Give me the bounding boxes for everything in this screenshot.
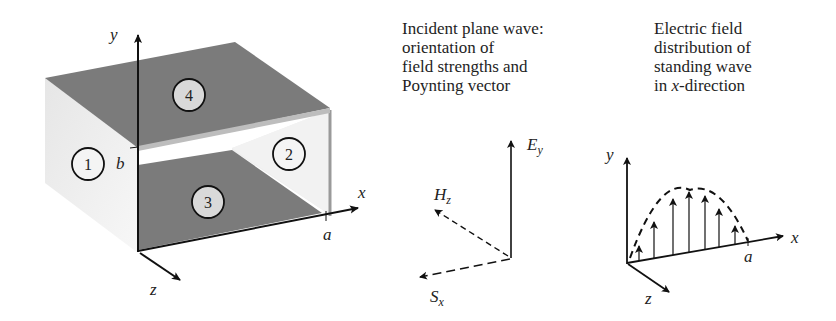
svg-text:1: 1 xyxy=(84,156,92,173)
y-axis-label: y xyxy=(108,25,118,44)
sw-a-label: a xyxy=(744,247,753,266)
svg-text:3: 3 xyxy=(204,194,212,211)
h-field-vector xyxy=(435,210,508,256)
svg-text:2: 2 xyxy=(285,146,293,163)
sw-z-label: z xyxy=(644,289,652,308)
s-x-label: Sx xyxy=(430,287,445,309)
sw-y-label: y xyxy=(604,145,614,164)
b-dimension-label: b xyxy=(116,154,125,173)
sw-z-axis xyxy=(628,264,669,292)
standing-wave-caption: Electric field distribution of standing … xyxy=(654,19,752,95)
face-1-badge: 1 xyxy=(72,148,104,180)
standing-wave-diagram: y x z a xyxy=(604,145,799,308)
incident-wave-vectors: Ey Hz Sx xyxy=(420,135,543,309)
incident-wave-caption: Incident plane wave: orientation of fiel… xyxy=(402,19,544,95)
x-axis-label: x xyxy=(357,183,366,202)
sw-x-label: x xyxy=(790,228,799,247)
poynting-vector xyxy=(420,259,510,277)
h-z-label: Hz xyxy=(433,185,451,207)
z-axis-label: z xyxy=(149,280,157,299)
face-2-badge: 2 xyxy=(273,138,305,170)
z-axis xyxy=(140,253,180,280)
face-3-badge: 3 xyxy=(192,186,224,218)
a-dimension-label: a xyxy=(323,225,332,244)
svg-text:4: 4 xyxy=(185,87,193,104)
e-y-label: Ey xyxy=(526,135,543,157)
face-4-badge: 4 xyxy=(173,79,205,111)
